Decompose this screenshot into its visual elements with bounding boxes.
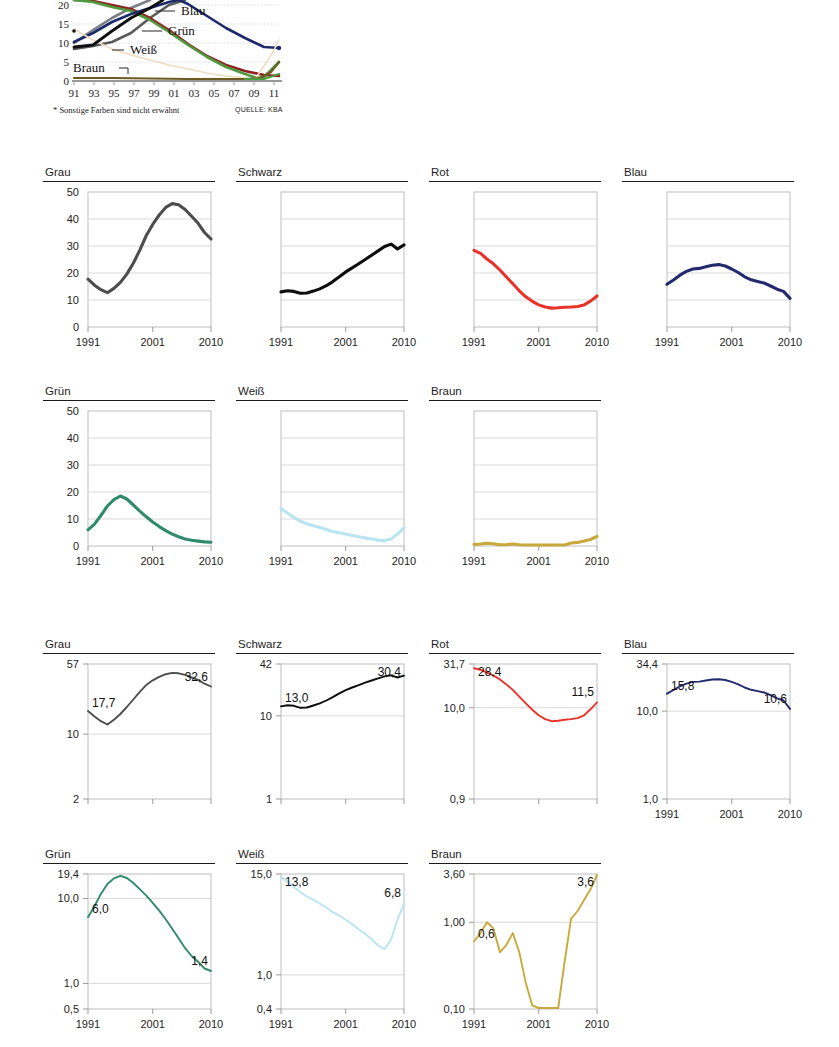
panel-log-grau: Grau5710217,732,6 (43, 638, 215, 833)
panel-svg-linear-braun: 199120012010 (429, 401, 613, 580)
panel-title-linear-weiss: Weiß (236, 385, 408, 399)
ytick-linear-grun: 30 (67, 459, 79, 471)
panel-linear-blau: Blau199120012010 (622, 166, 794, 361)
topfig-xtick-91: 91 (69, 87, 80, 99)
series-line-linear-braun (474, 536, 597, 545)
ytick-log-grau: 57 (67, 658, 79, 670)
panel-plot-log-grun: 19,410,01,00,51991200120106,01,4 (43, 864, 215, 1043)
value-label-start-log-braun: 0,6 (478, 927, 495, 941)
panel-title-log-blau: Blau (622, 638, 794, 652)
series-line-linear-blau (667, 265, 790, 299)
ytick-log-grun: 10,0 (58, 892, 79, 904)
value-label-start-log-blau: 15,8 (671, 679, 695, 693)
topfig-xtick-99: 99 (149, 87, 161, 99)
ytick-log-braun: 1,00 (444, 916, 465, 928)
panel-title-linear-blau: Blau (622, 166, 794, 180)
xtick-log-braun: 2001 (526, 1018, 550, 1030)
panel-linear-schwarz: Schwarz199120012010 (236, 166, 408, 361)
ytick-log-grau: 2 (73, 793, 79, 805)
value-label-end-log-grun: 1,4 (191, 954, 208, 968)
xtick-log-blau: 2010 (778, 808, 802, 820)
ytick-linear-grau: 20 (67, 267, 79, 279)
value-label-start-log-grun: 6,0 (92, 902, 109, 916)
xtick-linear-weiss: 2010 (392, 555, 416, 567)
panel-title-log-weiss: Weiß (236, 848, 408, 862)
panel-plot-linear-grau: 50403020100199120012010 (43, 182, 215, 361)
ytick-linear-grun: 0 (73, 540, 79, 552)
ytick-log-blau: 34,4 (637, 658, 658, 670)
xtick-log-grun: 2001 (140, 1018, 164, 1030)
topfig-source: QUELLE: KBA (235, 106, 283, 114)
topfig-xtick-01: 01 (169, 87, 180, 99)
value-label-end-log-blau: 10,6 (764, 692, 788, 706)
panel-plot-log-blau: 34,410,01,019912001201015,810,6 (622, 654, 794, 833)
panel-plot-linear-blau: 199120012010 (622, 182, 794, 361)
topfig-legend-weiss: Weiß (130, 42, 158, 57)
panel-title-log-grau: Grau (43, 638, 215, 652)
ytick-log-blau: 1,0 (643, 793, 658, 805)
topfig-legend-braun: Braun (73, 60, 105, 75)
xtick-linear-grun: 2010 (199, 555, 223, 567)
panel-linear-braun: Braun199120012010 (429, 385, 601, 580)
xtick-linear-schwarz: 2001 (333, 336, 357, 348)
panel-log-schwarz: Schwarz4210113,030,4 (236, 638, 408, 833)
ytick-log-weiss: 0,4 (257, 1003, 272, 1015)
xtick-log-blau: 2001 (719, 808, 743, 820)
panel-linear-rot: Rot199120012010 (429, 166, 601, 361)
ytick-log-braun: 3,60 (444, 868, 465, 880)
panel-linear-weiss: Weiß199120012010 (236, 385, 408, 580)
xtick-log-braun: 2010 (585, 1018, 609, 1030)
panel-svg-log-grun: 19,410,01,00,51991200120106,01,4 (43, 864, 227, 1043)
xtick-linear-blau: 1991 (655, 336, 679, 348)
panel-plot-log-weiss: 15,01,00,419912001201013,86,8 (236, 864, 408, 1043)
panel-svg-log-braun: 3,601,000,101991200120100,63,6 (429, 864, 613, 1043)
xtick-linear-rot: 2001 (526, 336, 550, 348)
ytick-log-grun: 1,0 (64, 977, 79, 989)
panel-svg-linear-rot: 199120012010 (429, 182, 613, 361)
series-line-log-braun (474, 875, 597, 1008)
panel-title-log-braun: Braun (429, 848, 601, 862)
ytick-log-schwarz: 42 (260, 658, 272, 670)
panel-linear-grun: Grün50403020100199120012010 (43, 385, 215, 580)
panel-title-linear-rot: Rot (429, 166, 601, 180)
panel-title-linear-grau: Grau (43, 166, 215, 180)
xtick-linear-rot: 1991 (462, 336, 486, 348)
xtick-linear-blau: 2010 (778, 336, 802, 348)
ytick-log-weiss: 1,0 (257, 969, 272, 981)
xtick-log-grun: 2010 (199, 1018, 223, 1030)
panel-title-log-rot: Rot (429, 638, 601, 652)
topfig-xtick-11: 11 (269, 87, 280, 99)
xtick-log-weiss: 1991 (269, 1018, 293, 1030)
xtick-linear-schwarz: 1991 (269, 336, 293, 348)
panel-svg-log-blau: 34,410,01,019912001201015,810,6 (622, 654, 806, 833)
topfig-xtick-93: 93 (89, 87, 101, 99)
ytick-linear-grun: 20 (67, 486, 79, 498)
value-label-end-log-weiss: 6,8 (384, 886, 401, 900)
topfig-footnote: * Sonstige Farben sind nicht erwähnt (53, 105, 180, 115)
panel-title-log-grun: Grün (43, 848, 215, 862)
topfig-ytick-15: 15 (58, 18, 70, 30)
ytick-log-blau: 10,0 (637, 705, 658, 717)
topfig-xtick-95: 95 (109, 87, 121, 99)
ytick-log-rot: 31,7 (444, 658, 465, 670)
ytick-linear-grun: 50 (67, 405, 79, 417)
value-label-start-log-schwarz: 13,0 (285, 691, 309, 705)
xtick-linear-braun: 2010 (585, 555, 609, 567)
ytick-linear-grau: 50 (67, 186, 79, 198)
series-line-linear-weiss (281, 509, 404, 541)
ytick-log-grun: 19,4 (58, 868, 79, 880)
panel-plot-log-braun: 3,601,000,101991200120100,63,6 (429, 864, 601, 1043)
xtick-log-weiss: 2001 (333, 1018, 357, 1030)
series-line-linear-grau (88, 204, 211, 293)
top-newspaper-figure: 20 15 10 5 0 Blau Grün We (45, 0, 370, 127)
panel-log-rot: Rot31,710,00,928,411,5 (429, 638, 601, 833)
value-label-end-log-braun: 3,6 (577, 875, 594, 889)
topfig-xtick-07: 07 (229, 87, 241, 99)
ytick-log-grun: 0,5 (64, 1003, 79, 1015)
ytick-log-schwarz: 1 (266, 793, 272, 805)
panel-svg-log-rot: 31,710,00,928,411,5 (429, 654, 613, 833)
xtick-linear-rot: 2010 (585, 336, 609, 348)
panel-plot-linear-rot: 199120012010 (429, 182, 601, 361)
top-figure-svg: 20 15 10 5 0 Blau Grün We (45, 0, 370, 127)
xtick-linear-weiss: 2001 (333, 555, 357, 567)
